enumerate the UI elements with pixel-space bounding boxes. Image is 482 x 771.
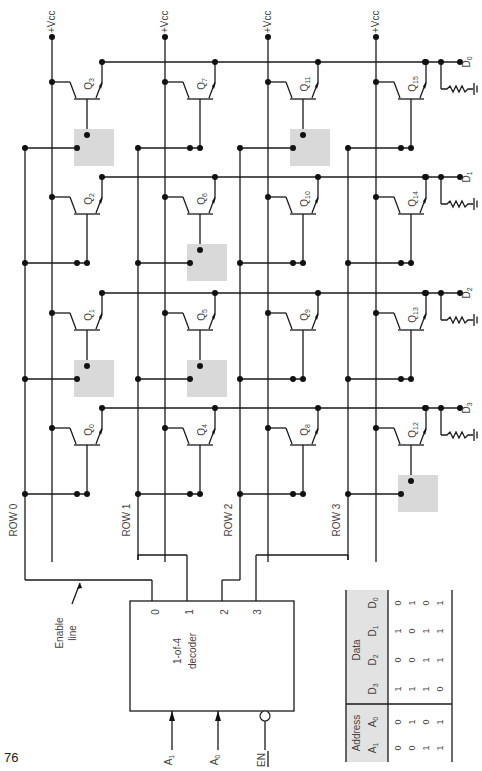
transistor-Q10: Q10 (237, 174, 321, 266)
decoder-title: decoder (187, 632, 198, 669)
transistor-Q4: Q4 (135, 405, 218, 497)
junction-dot (135, 376, 141, 382)
table-cell: 1 (407, 600, 417, 605)
table-cell: 1 (435, 719, 445, 724)
junction-dot (300, 491, 306, 497)
junction-dot (162, 34, 168, 40)
decoder-output-label: 0 (150, 609, 161, 615)
header-data: Data (351, 639, 362, 661)
active-low-bubble (260, 711, 270, 721)
wire (394, 313, 400, 329)
junction-dot (423, 405, 429, 411)
wire (70, 82, 76, 98)
junction-dot (315, 174, 321, 180)
junction-dot (135, 491, 141, 497)
input-arrow (169, 711, 175, 721)
open-link-shade (74, 129, 114, 166)
truth-table: AddressDataA1A0D3D2D1D000101001100110111… (346, 590, 452, 762)
table-cell: 0 (393, 719, 403, 724)
table-cell: 0 (435, 686, 445, 691)
decoder-box (130, 601, 294, 711)
transistor-label: Q15 (407, 76, 419, 92)
wire (286, 428, 292, 444)
transistor-Q8: Q8 (237, 405, 321, 497)
open-link-shade (290, 129, 330, 166)
input-label: A1 (163, 755, 175, 766)
junction-dot (237, 491, 243, 497)
junction-dot (290, 260, 296, 266)
junction-dot (290, 491, 296, 497)
wire (183, 428, 189, 444)
wire (183, 197, 189, 213)
junction-dot (300, 376, 306, 382)
junction-dot (300, 260, 306, 266)
decoder-output-label: 1 (184, 609, 195, 615)
open-link-shade (74, 360, 114, 397)
decoder-output-label: 2 (219, 609, 230, 615)
transistor-Q11: Q11 (237, 59, 330, 166)
data-output-label: D1 (461, 171, 473, 182)
transistor-Q14: Q14 (345, 174, 429, 266)
junction-dot (212, 174, 218, 180)
table-cell: 1 (421, 686, 431, 691)
wire (286, 197, 292, 213)
transistor-Q5: Q5 (135, 290, 227, 397)
junction-dot (74, 260, 80, 266)
junction-dot (212, 405, 218, 411)
junction-dot (99, 290, 105, 296)
memory-array: +Vcc+Vcc+Vcc+VccD0D1D2D3Q3Q2Q1Q0Q7Q6Q5Q4… (8, 10, 477, 562)
table-cell: 1 (407, 686, 417, 691)
vcc-label: +Vcc (46, 10, 57, 33)
junction-dot (22, 376, 28, 382)
row-label: ROW 1 (121, 503, 132, 536)
transistor-Q15: Q15 (345, 59, 429, 151)
rom-schematic: +Vcc+Vcc+Vcc+VccD0D1D2D3Q3Q2Q1Q0Q7Q6Q5Q4… (0, 0, 482, 771)
junction-dot (408, 478, 414, 484)
junction-dot (345, 491, 351, 497)
junction-dot (345, 376, 351, 382)
transistor-label: Q4 (196, 424, 208, 436)
transistor-Q2: Q2 (22, 174, 105, 266)
junction-dot (212, 290, 218, 296)
junction-dot (99, 59, 105, 65)
page-number: 76 (4, 750, 18, 765)
transistor-label: Q0 (83, 424, 95, 436)
table-cell: 0 (407, 657, 417, 662)
decoder-output-label: 3 (252, 609, 263, 615)
wire (70, 197, 76, 213)
table-cell: 1 (407, 719, 417, 724)
resistor (441, 201, 473, 207)
resistor (441, 86, 473, 92)
transistor-Q3: Q3 (22, 59, 114, 166)
junction-dot (84, 260, 90, 266)
table-cell: 1 (393, 686, 403, 691)
junction-dot (423, 290, 429, 296)
wire (394, 428, 400, 444)
decoder-block: 01231-of-4decoderEnablelineA1A0EN (25, 555, 348, 767)
vcc-label: +Vcc (262, 10, 273, 33)
junction-dot (315, 59, 321, 65)
junction-dot (237, 145, 243, 151)
transistor-label: Q3 (83, 78, 95, 90)
transistor-label: Q12 (407, 422, 419, 438)
data-output-label: D0 (461, 56, 473, 67)
junction-dot (345, 145, 351, 151)
table-cell: 1 (393, 628, 403, 633)
junction-dot (408, 145, 414, 151)
junction-dot (398, 260, 404, 266)
table-cell: 0 (393, 600, 403, 605)
table-cell: 0 (393, 745, 403, 750)
transistor-label: Q5 (196, 309, 208, 321)
transistor-Q6: Q6 (135, 174, 227, 281)
junction-dot (197, 247, 203, 253)
junction-dot (373, 34, 379, 40)
junction-dot (265, 34, 271, 40)
junction-dot (135, 145, 141, 151)
open-link-shade (398, 475, 438, 512)
header-address: Address (351, 715, 362, 752)
enable-annotation: Enable (54, 617, 65, 649)
wire (286, 313, 292, 329)
transistor-label: Q8 (299, 424, 311, 436)
junction-dot (84, 132, 90, 138)
transistor-label: Q7 (196, 78, 208, 90)
